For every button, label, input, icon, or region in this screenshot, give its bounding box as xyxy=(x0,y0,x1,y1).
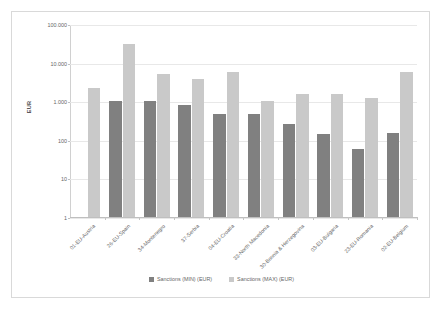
y-axis-tick-mark xyxy=(68,218,70,219)
x-axis-tick-label: 03-EU-Bulgaria xyxy=(310,223,340,253)
bar xyxy=(317,134,330,217)
bar-group xyxy=(278,25,313,217)
x-axis-tick-label: 33-North Macedonia xyxy=(232,223,270,261)
legend-label: Sanctions (MAX) (EUR) xyxy=(237,276,294,282)
bar xyxy=(400,72,413,217)
bar-group xyxy=(209,25,244,217)
bar-group xyxy=(139,25,174,217)
y-axis-tick-label: 1 xyxy=(64,215,67,221)
x-axis-tick-label: 02-EU-Belgium xyxy=(379,223,409,253)
x-axis-tick-label-text: 04-EU-Croatia xyxy=(207,223,235,251)
bar xyxy=(352,149,365,217)
legend-item[interactable]: Sanctions (MIN) (EUR) xyxy=(149,276,212,282)
bar-group xyxy=(244,25,279,217)
bar-group xyxy=(348,25,383,217)
bar-group xyxy=(313,25,348,217)
x-axis-tick-label-text: 33-North Macedonia xyxy=(232,223,270,261)
bar xyxy=(296,94,309,217)
x-axis-tick-label-text: 02-EU-Belgium xyxy=(379,223,409,253)
x-axis-tick-label: 01-EU-Austria xyxy=(69,223,97,251)
x-axis-tick-mark xyxy=(174,217,175,220)
bar-group xyxy=(382,25,417,217)
bar xyxy=(123,44,136,217)
x-axis-tick-label-text: 03-EU-Bulgaria xyxy=(310,223,340,253)
x-axis-tick-label-text: 23-EU-Romania xyxy=(343,223,374,254)
bar xyxy=(213,114,226,217)
x-axis-tick-label: 26-EU-Spain xyxy=(106,223,132,249)
bar xyxy=(387,133,400,217)
bar xyxy=(144,101,157,217)
x-axis-tick-label-text: 01-EU-Austria xyxy=(69,223,97,251)
x-axis-tick-label-text: 26-EU-Spain xyxy=(106,223,132,249)
bar xyxy=(109,101,122,217)
legend-swatch-icon xyxy=(149,277,154,282)
bar xyxy=(365,98,378,217)
chart-legend: Sanctions (MIN) (EUR)Sanctions (MAX) (EU… xyxy=(12,276,431,282)
bar xyxy=(178,105,191,217)
bar-group xyxy=(105,25,140,217)
y-axis-tick-label: 10.000 xyxy=(51,61,68,67)
legend-label: Sanctions (MIN) (EUR) xyxy=(157,276,212,282)
x-axis-tick-mark xyxy=(417,217,418,220)
x-axis-tick-mark xyxy=(209,217,210,220)
y-axis-tick-label: 1.000 xyxy=(54,99,68,105)
bar xyxy=(192,79,205,217)
x-axis-tick-label: 37-Serbia xyxy=(180,223,200,243)
x-axis-tick-mark xyxy=(348,217,349,220)
bar xyxy=(88,88,101,217)
bar xyxy=(227,72,240,217)
x-axis-tick-label: 23-EU-Romania xyxy=(343,223,374,254)
bar-group xyxy=(174,25,209,217)
bar xyxy=(261,101,274,217)
bar xyxy=(331,94,344,217)
chart-container: EUR 100.00010.0001.000100101 01-EU-Austr… xyxy=(11,11,430,298)
x-axis-tick-mark xyxy=(243,217,244,220)
x-axis-tick-label-text: 37-Serbia xyxy=(180,223,200,243)
bar-group xyxy=(70,25,105,217)
x-axis-tick-label-text: 34-Montenegro xyxy=(136,223,166,253)
bar xyxy=(248,114,261,217)
x-axis-tick-label: 04-EU-Croatia xyxy=(207,223,235,251)
x-axis-tick-label: 34-Montenegro xyxy=(136,223,166,253)
x-axis-tick-mark xyxy=(278,217,279,220)
bar xyxy=(283,124,296,217)
y-axis-tick-label: 10 xyxy=(61,176,67,182)
plot-area: 100.00010.0001.000100101 xyxy=(70,25,417,218)
x-axis-tick-mark xyxy=(313,217,314,220)
x-axis-tick-mark xyxy=(139,217,140,220)
x-axis-tick-mark xyxy=(105,217,106,220)
legend-item[interactable]: Sanctions (MAX) (EUR) xyxy=(229,276,294,282)
y-axis-tick-label: 100.000 xyxy=(48,22,68,28)
y-axis-title: EUR xyxy=(26,84,32,130)
legend-swatch-icon xyxy=(229,277,234,282)
y-axis-tick-label: 100 xyxy=(58,138,67,144)
bar xyxy=(157,74,170,217)
x-axis-tick-mark xyxy=(382,217,383,220)
